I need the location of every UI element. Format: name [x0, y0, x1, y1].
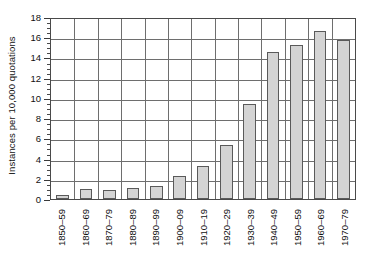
x-axis-tick-label-text: 1910–19 [197, 209, 208, 246]
x-axis-tick-label: 1920–29 [215, 200, 239, 262]
bar-slot [332, 19, 355, 199]
y-axis-tick-label: 0 [36, 195, 41, 205]
bar-chart-figure: Instances per 10,000 quotations 02468101… [0, 0, 378, 265]
plot-area [50, 18, 356, 200]
x-axis-tick-label-text: 1870–79 [103, 209, 114, 246]
x-axis-tick-label-text: 1960–69 [315, 209, 326, 246]
x-axis-tick-label: 1870–79 [97, 200, 121, 262]
x-axis-tick-label-text: 1900–09 [174, 209, 185, 246]
bar[interactable] [314, 31, 327, 199]
y-axis-tick-label: 16 [30, 33, 41, 43]
y-axis-tick-label: 14 [30, 54, 41, 64]
bar-slot [308, 19, 331, 199]
x-axis-tick-label: 1930–39 [238, 200, 262, 262]
y-axis-tick-labels: 024681012141618 [20, 0, 44, 210]
x-axis-tick-label-text: 1970–79 [339, 209, 350, 246]
x-axis-tick-label: 1890–99 [144, 200, 168, 262]
bar[interactable] [197, 166, 210, 199]
x-axis-tick-label: 1970–79 [332, 200, 356, 262]
bar-slot [51, 19, 74, 199]
x-axis-tick-label: 1880–89 [121, 200, 145, 262]
y-axis-tick-label: 18 [30, 13, 41, 23]
x-axis-tick-label: 1950–59 [285, 200, 309, 262]
bar[interactable] [337, 40, 350, 199]
bar-slot [121, 19, 144, 199]
x-axis-tick-label-text: 1930–39 [245, 209, 256, 246]
x-axis-tick-label-text: 1940–49 [268, 209, 279, 246]
bar[interactable] [56, 195, 69, 199]
bar-slot [168, 19, 191, 199]
x-axis-tick-labels: 1850–591860–691870–791880–891890–991900–… [50, 200, 356, 265]
bar-slot [74, 19, 97, 199]
bar[interactable] [173, 176, 186, 199]
bar[interactable] [290, 45, 303, 199]
y-axis-tick-label: 12 [30, 74, 41, 84]
x-axis-tick-label: 1860–69 [74, 200, 98, 262]
bar-slot [261, 19, 284, 199]
x-axis-tick-label-text: 1850–59 [56, 209, 67, 246]
y-axis-tick-label: 2 [36, 175, 41, 185]
x-axis-tick-label-text: 1920–29 [221, 209, 232, 246]
bar-slot [238, 19, 261, 199]
x-axis-tick-label-text: 1950–59 [292, 209, 303, 246]
x-axis-tick-label-text: 1860–69 [80, 209, 91, 246]
bar[interactable] [127, 188, 140, 199]
bar-slot [285, 19, 308, 199]
bar[interactable] [267, 52, 280, 199]
y-axis-title-text: Instances per 10,000 quotations [6, 36, 17, 174]
x-axis-tick-label-text: 1890–99 [150, 209, 161, 246]
bar-slot [215, 19, 238, 199]
y-axis-tick-label: 8 [36, 114, 41, 124]
bar-series [51, 19, 355, 199]
x-axis-tick-label: 1910–19 [191, 200, 215, 262]
x-axis-tick-label-text: 1880–89 [127, 209, 138, 246]
y-axis-tick-label: 6 [36, 135, 41, 145]
x-axis-tick-label: 1940–49 [262, 200, 286, 262]
bar-slot [98, 19, 121, 199]
bar[interactable] [150, 186, 163, 199]
y-axis-tick-label: 10 [30, 94, 41, 104]
bar[interactable] [243, 104, 256, 199]
bar[interactable] [103, 190, 116, 199]
y-axis-title: Instances per 10,000 quotations [0, 0, 22, 210]
x-axis-tick-label: 1960–69 [309, 200, 333, 262]
bar-slot [191, 19, 214, 199]
x-axis-tick-label: 1900–09 [168, 200, 192, 262]
bar[interactable] [80, 189, 93, 199]
y-axis-tick-label: 4 [36, 155, 41, 165]
bar[interactable] [220, 145, 233, 199]
x-axis-tick-label: 1850–59 [50, 200, 74, 262]
bar-slot [145, 19, 168, 199]
